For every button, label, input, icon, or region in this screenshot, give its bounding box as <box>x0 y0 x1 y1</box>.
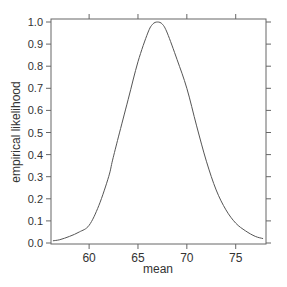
y-tick-label: 0.4 <box>28 149 43 161</box>
y-axis-label: empirical likelihood <box>9 81 23 182</box>
y-tick-label: 0.2 <box>28 193 43 205</box>
y-tick-label: 0.7 <box>28 82 43 94</box>
y-tick-label: 0.5 <box>28 127 43 139</box>
x-tick-label: 60 <box>82 251 96 265</box>
x-tick-label: 75 <box>229 251 243 265</box>
y-tick-label: 0.9 <box>28 38 43 50</box>
x-axis-label: mean <box>143 262 173 276</box>
y-tick-label: 0.0 <box>28 237 43 249</box>
y-axis-ticks: 0.00.10.20.30.40.50.60.70.80.91.0 <box>28 16 271 249</box>
y-tick-label: 0.1 <box>28 215 43 227</box>
x-tick-label: 70 <box>180 251 194 265</box>
y-tick-label: 1.0 <box>28 16 43 28</box>
y-tick-label: 0.8 <box>28 60 43 72</box>
likelihood-curve <box>53 22 263 241</box>
likelihood-chart: 0.00.10.20.30.40.50.60.70.80.91.0 606570… <box>0 0 287 287</box>
plot-frame <box>51 19 266 244</box>
y-tick-label: 0.6 <box>28 104 43 116</box>
x-axis-ticks: 60657075 <box>82 14 242 265</box>
y-tick-label: 0.3 <box>28 171 43 183</box>
